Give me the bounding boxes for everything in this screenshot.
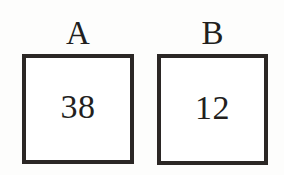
box-b: 12 — [157, 54, 268, 165]
box-label-a: A — [22, 14, 134, 52]
figure-canvas: A 38 B 12 — [0, 0, 284, 175]
box-a: 38 — [22, 54, 134, 164]
box-value-a: 38 — [61, 90, 96, 124]
labeled-box-group-b: B 12 — [157, 14, 268, 165]
labeled-box-group-a: A 38 — [22, 14, 134, 164]
box-label-b: B — [157, 14, 268, 52]
box-value-b: 12 — [195, 91, 230, 125]
